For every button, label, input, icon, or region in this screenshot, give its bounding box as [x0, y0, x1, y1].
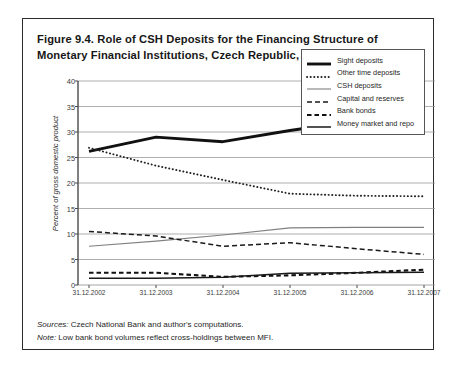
- legend-item: Bank bonds: [306, 104, 419, 117]
- chart-axes: [75, 81, 78, 285]
- figure-notes: Sources: Czech National Bank and author'…: [37, 319, 421, 344]
- chart-series: [89, 112, 424, 279]
- legend-item: Other time deposits: [306, 67, 419, 80]
- series-line-1: [89, 148, 424, 196]
- legend-swatch-icon: [306, 68, 332, 78]
- x-tick-label: 31.12.2004: [206, 289, 239, 296]
- legend-item: CSH deposits: [306, 79, 419, 92]
- sources-text: Czech National Bank and author's computa…: [69, 320, 244, 329]
- legend-item: Capital and reserves: [306, 92, 419, 105]
- chart-legend: Sight depositsOther time depositsCSH dep…: [301, 49, 425, 135]
- legend-label: Sight deposits: [337, 56, 383, 65]
- legend-label: CSH deposits: [337, 81, 382, 90]
- x-tick-label: 31.12.2003: [139, 289, 172, 296]
- legend-swatch-icon: [306, 118, 332, 128]
- legend-label: Bank bonds: [337, 106, 376, 115]
- legend-item: Money market and repo: [306, 117, 419, 130]
- sources-line: Sources: Czech National Bank and author'…: [37, 319, 421, 332]
- sources-label: Sources:: [37, 320, 69, 329]
- legend-item: Sight deposits: [306, 54, 419, 67]
- legend-swatch-icon: [306, 93, 332, 103]
- x-tick-label: 31.12.2005: [273, 289, 306, 296]
- series-line-2: [89, 227, 424, 246]
- note-text: Low bank bond volumes reflect cross-hold…: [56, 333, 273, 342]
- legend-swatch-icon: [306, 55, 332, 65]
- x-tick-label: 31.12.2006: [340, 289, 373, 296]
- series-line-5: [89, 272, 424, 278]
- note-line: Note: Low bank bond volumes reflect cros…: [37, 332, 421, 345]
- figure-container: Figure 9.4. Role of CSH Deposits for the…: [22, 18, 434, 350]
- x-tick-label: 31.12.2007: [407, 289, 440, 296]
- legend-label: Capital and reserves: [337, 94, 404, 103]
- legend-label: Money market and repo: [337, 119, 414, 128]
- legend-label: Other time deposits: [337, 68, 400, 77]
- note-label: Note:: [37, 333, 56, 342]
- x-tick-label: 31.12.2002: [72, 289, 105, 296]
- x-axis-tick-labels: 31.12.200231.12.200331.12.200431.12.2005…: [23, 285, 435, 305]
- legend-swatch-icon: [306, 106, 332, 116]
- legend-swatch-icon: [306, 80, 332, 90]
